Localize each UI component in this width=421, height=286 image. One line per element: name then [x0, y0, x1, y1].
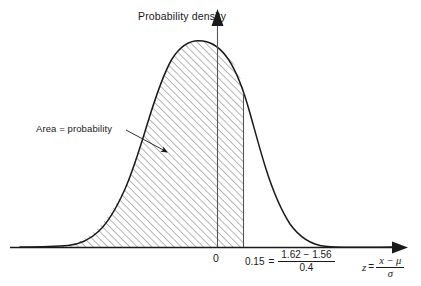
x-axis-fraction: x − μ σ	[376, 255, 404, 279]
x-axis-denominator: σ	[385, 268, 396, 280]
x-axis-numerator: x − μ	[376, 255, 404, 267]
normal-distribution-figure: Probability density Area = probability 0…	[0, 0, 421, 286]
x-axis-equals-sign: =	[368, 262, 374, 272]
zscore-denominator: 0.4	[297, 262, 317, 273]
zscore-value-label: 0.15	[245, 257, 264, 267]
y-axis-title: Probability density	[138, 11, 226, 22]
x-axis-arrowhead	[392, 242, 408, 254]
x-axis-variable: z	[362, 262, 366, 273]
zscore-calculation: 0.15 = 1.62 − 1.56 0.4	[245, 250, 335, 273]
area-probability-annotation: Area = probability	[36, 124, 112, 134]
tick-label-origin: 0	[213, 253, 219, 264]
zscore-equals-sign: =	[267, 257, 275, 267]
zscore-fraction: 1.62 − 1.56 0.4	[278, 250, 334, 273]
distribution-plot-svg	[0, 0, 421, 286]
x-axis-label: z = x − μ σ	[362, 255, 404, 279]
zscore-numerator: 1.62 − 1.56	[278, 250, 334, 261]
